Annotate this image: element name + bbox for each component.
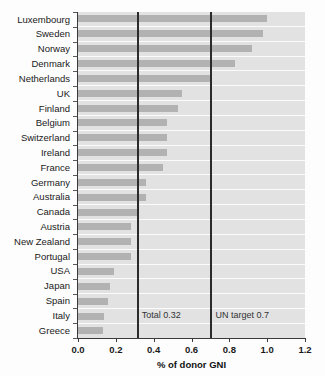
reference-line (137, 12, 139, 338)
bar-row (78, 309, 305, 324)
x-tick-label: 1.0 (261, 344, 274, 355)
y-axis-label: Finland (0, 101, 74, 116)
x-axis-ticks (78, 338, 305, 342)
y-tick-mark (73, 294, 77, 295)
reference-line (210, 12, 212, 338)
y-axis-label: France (0, 160, 74, 175)
y-tick-mark (73, 56, 77, 57)
y-tick-mark (73, 190, 77, 191)
bar (78, 209, 137, 216)
y-tick-mark (73, 249, 77, 250)
bar-row (78, 71, 305, 86)
reference-line-label: Total 0.32 (142, 311, 181, 320)
y-axis-label: Italy (0, 308, 74, 323)
y-axis-label: UK (0, 86, 74, 101)
x-tick-mark (267, 338, 268, 342)
y-tick-mark (73, 308, 77, 309)
bar (78, 283, 110, 290)
y-axis-label: Netherlands (0, 71, 74, 86)
y-axis-label: Japan (0, 279, 74, 294)
x-tick-mark (78, 338, 79, 342)
x-tick-label: 1.2 (298, 344, 311, 355)
bar-row (78, 324, 305, 338)
y-tick-mark (73, 71, 77, 72)
y-axis-label: Australia (0, 190, 74, 205)
bar-row (78, 116, 305, 131)
y-axis-label: Belgium (0, 116, 74, 131)
bar (78, 164, 163, 171)
bar-row (78, 131, 305, 146)
x-tick-label: 0.4 (147, 344, 160, 355)
bar-row (78, 235, 305, 250)
x-tick-label: 0.0 (71, 344, 84, 355)
y-tick-mark (73, 234, 77, 235)
bar-row (78, 57, 305, 72)
y-tick-mark (73, 279, 77, 280)
y-tick-mark (73, 219, 77, 220)
y-tick-mark (73, 12, 77, 13)
bar (78, 149, 167, 156)
x-tick-mark (116, 338, 117, 342)
y-axis-label: USA (0, 264, 74, 279)
y-axis-label: Ireland (0, 145, 74, 160)
x-tick-mark (229, 338, 230, 342)
bar-row (78, 265, 305, 280)
y-axis-label: Luxembourg (0, 12, 74, 27)
y-tick-mark (73, 116, 77, 117)
y-axis-category-labels: LuxembourgSwedenNorwayDenmarkNetherlands… (0, 12, 74, 338)
y-axis-label: Norway (0, 42, 74, 57)
bar-row (78, 220, 305, 235)
bar (78, 313, 104, 320)
bar (78, 327, 103, 334)
y-tick-mark (73, 86, 77, 87)
bar-row (78, 146, 305, 161)
reference-line-label: UN target 0.7 (215, 311, 269, 320)
x-axis-tick-labels: 0.00.20.40.60.81.01.2 (78, 344, 305, 357)
y-tick-mark (73, 323, 77, 324)
x-axis-title: % of donor GNI (78, 359, 305, 370)
bar-row (78, 27, 305, 42)
y-axis-label: Sweden (0, 27, 74, 42)
y-tick-mark (73, 101, 77, 102)
bar-rows (78, 12, 305, 338)
bar (78, 75, 210, 82)
bar-row (78, 250, 305, 265)
bar (78, 223, 131, 230)
bar-chart: LuxembourgSwedenNorwayDenmarkNetherlands… (0, 0, 325, 376)
bar (78, 298, 108, 305)
y-axis-label: Spain (0, 293, 74, 308)
bar-row (78, 86, 305, 101)
y-axis-label: Greece (0, 323, 74, 338)
bar (78, 45, 252, 52)
bar-row (78, 175, 305, 190)
y-axis-label: Germany (0, 175, 74, 190)
bar (78, 90, 182, 97)
y-tick-mark (73, 205, 77, 206)
y-tick-mark (73, 264, 77, 265)
bar (78, 105, 178, 112)
bar-row (78, 161, 305, 176)
bar (78, 119, 167, 126)
y-axis-ticks (73, 12, 77, 338)
bar (78, 238, 131, 245)
y-tick-mark (73, 131, 77, 132)
x-tick-mark (154, 338, 155, 342)
y-tick-mark (73, 27, 77, 28)
y-axis-label: New Zealand (0, 234, 74, 249)
x-tick-mark (192, 338, 193, 342)
bar-row (78, 279, 305, 294)
y-axis-label: Canada (0, 205, 74, 220)
bar (78, 30, 263, 37)
y-axis-label: Austria (0, 219, 74, 234)
y-axis-label: Portugal (0, 249, 74, 264)
bar-row (78, 12, 305, 27)
y-tick-mark (73, 160, 77, 161)
y-tick-mark (73, 145, 77, 146)
bar (78, 15, 267, 22)
y-axis-label: Denmark (0, 56, 74, 71)
y-axis-label: Switzerland (0, 131, 74, 146)
bar-row (78, 190, 305, 205)
x-tick-mark (305, 338, 306, 342)
y-tick-mark (73, 42, 77, 43)
y-tick-mark (73, 175, 77, 176)
